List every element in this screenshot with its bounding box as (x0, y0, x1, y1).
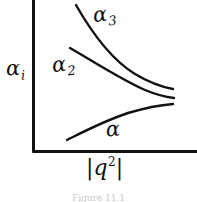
y-axis-label: αi (5, 58, 25, 83)
x-axis-label-exponent: 2 (108, 155, 116, 169)
curve-label-alpha: α (105, 119, 121, 144)
curve-label-alpha3-subscript: 3 (107, 13, 117, 29)
y-axis-label-base: α (5, 56, 20, 81)
y-axis-label-subscript: i (21, 67, 26, 82)
x-axis-label-close-bar: | (116, 155, 123, 180)
curve-label-alpha3: α3 (92, 3, 118, 30)
curve-alpha2 (70, 48, 174, 98)
curve-label-alpha-base: α (105, 117, 121, 142)
x-axis-label-symbol: q (93, 155, 107, 180)
curve-label-alpha2-subscript: 2 (66, 63, 76, 79)
x-axis-label: |q2| (86, 156, 123, 179)
figure-caption: Figure 11.1 (0, 193, 197, 202)
curve-alpha3 (76, 5, 173, 89)
curve-label-alpha2: α2 (51, 53, 77, 80)
curve-label-alpha3-base: α (91, 2, 108, 28)
figure-container: αi α3 α2 α |q2| Figure 11.1 (0, 0, 197, 202)
curve-label-alpha2-base: α (50, 52, 67, 78)
